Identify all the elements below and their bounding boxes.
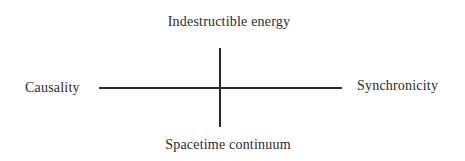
vertical-axis-line	[219, 48, 221, 127]
label-bottom-spacetime-continuum: Spacetime continuum	[160, 137, 296, 153]
label-top-indestructible-energy: Indestructible energy	[162, 14, 296, 30]
label-left-causality: Causality	[25, 80, 80, 96]
label-right-synchronicity: Synchronicity	[357, 78, 438, 94]
